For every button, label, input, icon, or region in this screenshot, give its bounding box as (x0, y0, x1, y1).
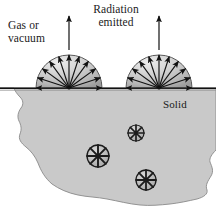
label-solid: Solid (163, 98, 187, 110)
emitter-3 (136, 170, 156, 190)
figure-canvas: Gas or vacuum Radiation emitted Solid (0, 0, 216, 216)
left-dome-origin (68, 87, 71, 90)
label-radiation-emitted: Radiation emitted (74, 3, 158, 29)
left-dome-group (36, 55, 102, 90)
label-gas-or-vacuum: Gas or vacuum (8, 19, 45, 45)
emitter-1 (87, 145, 109, 167)
right-dome-group (126, 55, 192, 90)
emitter-2 (128, 125, 144, 141)
right-dome-origin (158, 87, 161, 90)
